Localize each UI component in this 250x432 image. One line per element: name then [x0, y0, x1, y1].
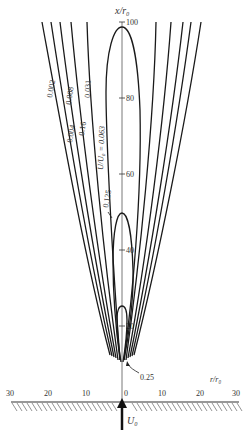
- contour-0125-closed: [113, 213, 133, 360]
- svg-text:30: 30: [6, 389, 14, 398]
- contour-0031-left: [87, 22, 118, 360]
- label-0125: 0.125: [101, 189, 113, 208]
- svg-text:20: 20: [44, 389, 52, 398]
- label-025: 0.25: [140, 373, 154, 382]
- svg-text:10: 10: [82, 389, 90, 398]
- contour-0004-left: [51, 22, 112, 356]
- label-0063-title: U/U₀ = 0.063: [96, 126, 107, 170]
- y-axis-label: x/r₀: [114, 5, 130, 16]
- tick-100: 100: [126, 18, 138, 27]
- contour-0004-right: [132, 22, 191, 356]
- svg-text:0: 0: [124, 389, 128, 398]
- inlet-label: U₀: [127, 415, 138, 426]
- tick-60: 60: [126, 170, 134, 179]
- svg-text:20: 20: [196, 389, 204, 398]
- x-axis-label: r/r₀: [210, 375, 221, 384]
- svg-text:30: 30: [232, 389, 240, 398]
- arrowhead-025: [126, 361, 130, 366]
- svg-text:10: 10: [158, 389, 166, 398]
- inlet-arrow-head: [117, 398, 127, 408]
- leader-025: [128, 364, 139, 373]
- x-ticks: 30 20 10 0 10 20 30: [6, 389, 240, 398]
- jet-contour-diagram: x/r₀ 100 80 60 40 20 0.002 0.004 0.008: [0, 0, 250, 432]
- label-0031: 0.031: [83, 80, 93, 98]
- wall-hatching: [12, 403, 242, 411]
- tick-80: 80: [126, 94, 134, 103]
- label-016: 0.16: [77, 121, 88, 136]
- label-0008: 0.008: [64, 86, 75, 105]
- label-0004: 0.004: [65, 124, 77, 143]
